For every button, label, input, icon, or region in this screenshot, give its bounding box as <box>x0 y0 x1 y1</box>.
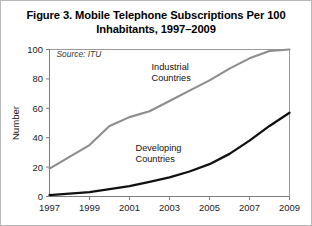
x-axis-tick-labels: 1997199920012003200520072009 <box>39 202 300 213</box>
y-axis-title: Number <box>10 105 21 140</box>
x-tick-label: 2007 <box>239 202 260 213</box>
line-chart-svg: 020406080100 199719992001200320052007200… <box>1 1 312 226</box>
series-label-developing-countries: Developing <box>136 143 182 153</box>
x-tick-label: 2009 <box>279 202 300 213</box>
figure-container: Figure 3. Mobile Telephone Subscriptions… <box>0 0 312 226</box>
x-tick-label: 2001 <box>119 202 140 213</box>
x-tick-label: 1997 <box>39 202 60 213</box>
y-tick-label: 40 <box>33 132 43 143</box>
source-note: Source: ITU <box>57 49 103 59</box>
x-tick-label: 1999 <box>79 202 100 213</box>
y-axis-title-label: Number <box>10 105 21 140</box>
chart-plot-area: 020406080100 199719992001200320052007200… <box>1 1 312 226</box>
x-tick-label: 2005 <box>199 202 220 213</box>
y-axis-tick-labels: 020406080100 <box>27 44 43 202</box>
series-label-industrial-countries: Countries <box>152 73 192 83</box>
y-tick-label: 20 <box>33 162 43 173</box>
y-tick-label: 100 <box>27 44 43 55</box>
series-label-industrial-countries: Industrial <box>152 62 189 72</box>
series-label-developing-countries: Countries <box>136 154 176 164</box>
y-tick-label: 0 <box>38 191 43 202</box>
x-tick-label: 2003 <box>159 202 180 213</box>
y-tick-label: 60 <box>33 103 43 114</box>
y-tick-label: 80 <box>33 73 43 84</box>
chart-annotations: Source: ITU <box>57 49 103 59</box>
